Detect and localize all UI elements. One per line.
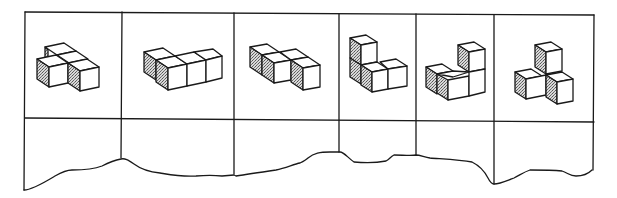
answer-row — [25, 120, 592, 168]
cell-6-figure — [515, 42, 573, 104]
cell-4-figure — [350, 35, 407, 92]
answer-cell-2[interactable] — [122, 121, 233, 157]
cube-puzzle-diagram — [0, 0, 617, 198]
answer-cell-6[interactable] — [495, 122, 592, 168]
answer-cell-3[interactable] — [235, 121, 338, 151]
answer-cell-4[interactable] — [340, 121, 415, 151]
left-border — [24, 12, 25, 190]
cell-3-figure — [250, 44, 320, 90]
right-border — [593, 15, 594, 170]
cell-2-figure — [144, 48, 222, 90]
answer-cell-5[interactable] — [417, 121, 493, 155]
divider-1 — [121, 12, 122, 158]
answer-cell-1[interactable] — [25, 120, 121, 156]
cell-1-figure — [37, 43, 99, 91]
top-border — [25, 12, 594, 15]
cell-5-figure — [426, 42, 485, 100]
